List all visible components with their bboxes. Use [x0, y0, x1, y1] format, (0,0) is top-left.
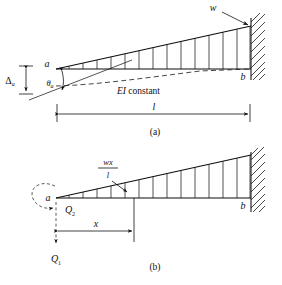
point-label-b-panel-b: b: [241, 200, 246, 211]
moment-arrow-q2: [32, 184, 55, 209]
load-callout-numerator: wx: [103, 157, 113, 167]
load-ordinates-b: [69, 155, 250, 198]
distance-dimension-label-x: x: [93, 218, 99, 229]
load-hypotenuse-b: [56, 155, 251, 198]
load-hypotenuse-a: [56, 26, 251, 69]
fixed-support-wall-b: [251, 147, 265, 212]
force-label-q1: Q1: [51, 253, 61, 266]
load-ordinates-a: [69, 26, 250, 69]
point-label-b-panel-a: b: [241, 71, 246, 82]
load-intensity-arrow-a: [222, 12, 248, 25]
panel-a-group: w a b θa Δa EI constant: [5, 2, 265, 138]
stiffness-note-a: EI constant: [116, 86, 160, 96]
panel-b-group: wx l a b Q2 Q1 x (b): [32, 147, 265, 273]
span-dimension-label-l: l: [153, 101, 156, 112]
beam-diagram-svg: w a b θa Δa EI constant: [0, 0, 282, 285]
fixed-support-wall-a: [251, 13, 265, 80]
deflection-dimension-a: [19, 66, 33, 94]
point-label-a-panel-a: a: [45, 58, 50, 69]
load-ordinate-callout-b: wx l: [98, 157, 127, 192]
deflected-shape-curve-a: [56, 69, 250, 86]
panel-b-caption: (b): [149, 262, 160, 273]
load-callout-denominator: l: [107, 170, 110, 180]
slope-angle-label-theta-a: θa: [46, 78, 53, 89]
figure-root: w a b θa Δa EI constant: [0, 0, 282, 285]
load-intensity-label-w: w: [210, 2, 217, 13]
deflection-label-delta-a: Δa: [5, 75, 14, 87]
panel-a-caption: (a): [150, 127, 161, 138]
moment-label-q2: Q2: [65, 204, 75, 217]
point-label-a-panel-b: a: [46, 192, 51, 203]
